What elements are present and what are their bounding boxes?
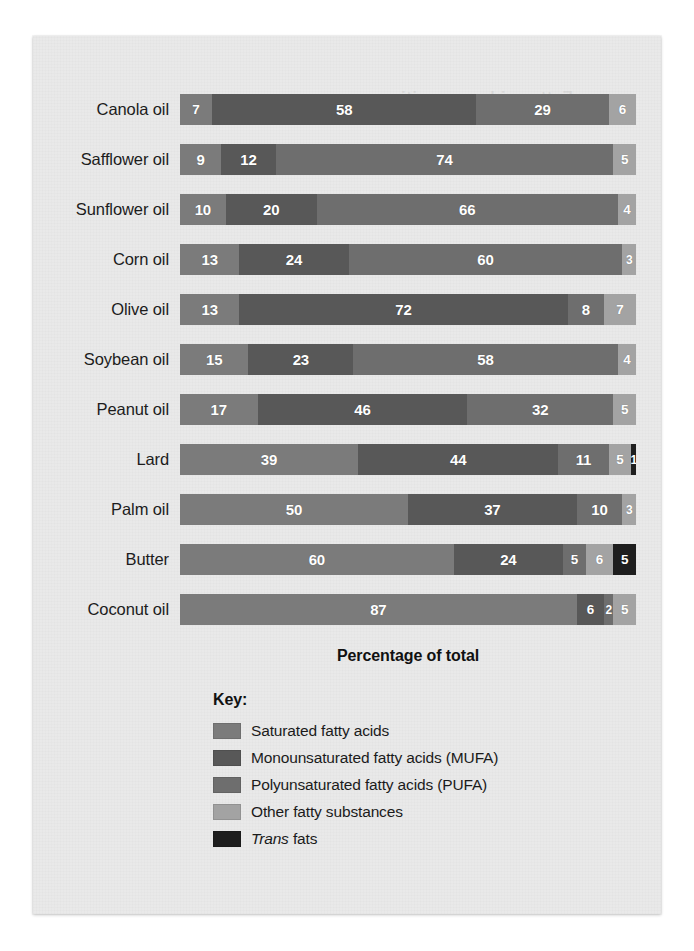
bar-segment-value: 6 [619, 102, 626, 117]
stacked-bar: 758296 [180, 94, 636, 125]
chart-row-label: Butter [33, 550, 180, 569]
stacked-bar: 5037103 [180, 494, 636, 525]
bar-segment-other: 7 [604, 294, 636, 325]
bar-segment-other: 6 [609, 94, 636, 125]
bar-segment-value: 6 [587, 602, 594, 617]
legend-item-trans: Trans fats [213, 825, 498, 852]
stacked-bar: 1746325 [180, 394, 636, 425]
bar-segment-value: 15 [206, 351, 222, 368]
bar-segment-value: 24 [500, 551, 516, 568]
bar-segment-other: 3 [622, 244, 636, 275]
chart-row-label: Corn oil [33, 250, 180, 269]
bar-segment-value: 44 [450, 451, 466, 468]
bar-segment-other: 5 [613, 394, 636, 425]
bar-segment-value: 60 [477, 251, 493, 268]
bar-segment-pufa: 5 [563, 544, 586, 575]
bar-segment-pufa: 60 [349, 244, 623, 275]
bar-segment-saturated: 13 [180, 244, 239, 275]
bar-segment-value: 3 [626, 503, 632, 517]
bar-segment-value: 4 [623, 352, 630, 367]
bar-segment-value: 9 [196, 151, 204, 168]
chart-row: Canola oil758296 [33, 94, 661, 125]
bar-segment-mufa: 24 [454, 544, 563, 575]
chart-legend: Key: Saturated fatty acidsMonounsaturate… [213, 691, 498, 852]
stacked-bar: 1324603 [180, 244, 636, 275]
bar-segment-value: 13 [201, 301, 217, 318]
bar-segment-value: 20 [263, 201, 279, 218]
legend-item-label: Trans fats [251, 830, 317, 848]
bar-segment-other: 5 [609, 444, 632, 475]
chart-row: Soybean oil1523584 [33, 344, 661, 375]
chart-row: Olive oil137287 [33, 294, 661, 325]
bar-segment-value: 6 [596, 552, 603, 567]
bar-segment-mufa: 46 [258, 394, 468, 425]
bar-segment-mufa: 37 [408, 494, 577, 525]
chart-row: Coconut oil87625 [33, 594, 661, 625]
bar-segment-saturated: 87 [180, 594, 577, 625]
legend-items: Saturated fatty acidsMonounsaturated fat… [213, 717, 498, 852]
bar-segment-value: 23 [293, 351, 309, 368]
bar-segment-pufa: 10 [577, 494, 623, 525]
bar-segment-saturated: 7 [180, 94, 212, 125]
stacked-bar: 6024565 [180, 544, 636, 575]
bar-segment-trans: 1 [631, 444, 636, 475]
legend-swatch-pufa [213, 777, 241, 793]
x-axis-caption: Percentage of total [180, 647, 636, 665]
bar-segment-mufa: 44 [358, 444, 559, 475]
chart-row-label: Olive oil [33, 300, 180, 319]
bar-segment-value: 37 [484, 501, 500, 518]
bar-segment-value: 5 [571, 552, 578, 567]
bar-segment-value: 50 [286, 501, 302, 518]
chart-row: Lard39441151 [33, 444, 661, 475]
chart-row: Butter6024565 [33, 544, 661, 575]
bar-segment-pufa: 8 [568, 294, 604, 325]
bar-segment-value: 2 [605, 603, 611, 617]
chart-row-label: Peanut oil [33, 400, 180, 419]
bar-segment-value: 1 [631, 453, 636, 467]
chart-row-label: Coconut oil [33, 600, 180, 619]
chart-row-label: Sunflower oil [33, 200, 180, 219]
bar-segment-value: 58 [477, 351, 493, 368]
legend-swatch-trans [213, 831, 241, 847]
stacked-bar: 912745 [180, 144, 636, 175]
bar-segment-pufa: 32 [467, 394, 613, 425]
stacked-bar: 1523584 [180, 344, 636, 375]
chart-row: Sunflower oil1020664 [33, 194, 661, 225]
legend-item-saturated: Saturated fatty acids [213, 717, 498, 744]
bar-segment-saturated: 13 [180, 294, 239, 325]
stacked-bar: 137287 [180, 294, 636, 325]
bar-segment-value: 13 [201, 251, 217, 268]
bar-segment-mufa: 23 [248, 344, 353, 375]
stacked-bar: 1020664 [180, 194, 636, 225]
bar-segment-value: 32 [532, 401, 548, 418]
bar-segment-mufa: 12 [221, 144, 276, 175]
stacked-bar: 39441151 [180, 444, 636, 475]
bar-segment-value: 24 [286, 251, 302, 268]
bar-segment-other: 5 [613, 144, 636, 175]
bar-segment-value: 17 [211, 401, 227, 418]
bar-segment-value: 46 [354, 401, 370, 418]
bar-segment-value: 7 [616, 302, 623, 317]
legend-item-label: Monounsaturated fatty acids (MUFA) [251, 749, 498, 767]
chart-row-label: Safflower oil [33, 150, 180, 169]
stacked-bar: 87625 [180, 594, 636, 625]
bar-segment-value: 58 [336, 101, 352, 118]
legend-item-label: Polyunsaturated fatty acids (PUFA) [251, 776, 487, 794]
bar-segment-value: 72 [395, 301, 411, 318]
bar-segment-value: 5 [616, 452, 623, 467]
bar-segment-mufa: 58 [212, 94, 476, 125]
bar-segment-other: 3 [622, 494, 636, 525]
legend-swatch-saturated [213, 723, 241, 739]
bar-segment-other: 6 [586, 544, 613, 575]
bar-segment-saturated: 9 [180, 144, 221, 175]
bar-segment-mufa: 24 [239, 244, 348, 275]
chart-row: Peanut oil1746325 [33, 394, 661, 425]
bar-segment-pufa: 2 [604, 594, 613, 625]
bar-segment-saturated: 15 [180, 344, 248, 375]
bar-segment-trans: 5 [613, 544, 636, 575]
bar-segment-pufa: 66 [317, 194, 618, 225]
chart-row: Safflower oil912745 [33, 144, 661, 175]
chart-rows: Canola oil758296Safflower oil912745Sunfl… [33, 94, 661, 644]
scanned-page-card: Fatty acid composition Canola oil758296S… [33, 36, 661, 914]
legend-swatch-other [213, 804, 241, 820]
